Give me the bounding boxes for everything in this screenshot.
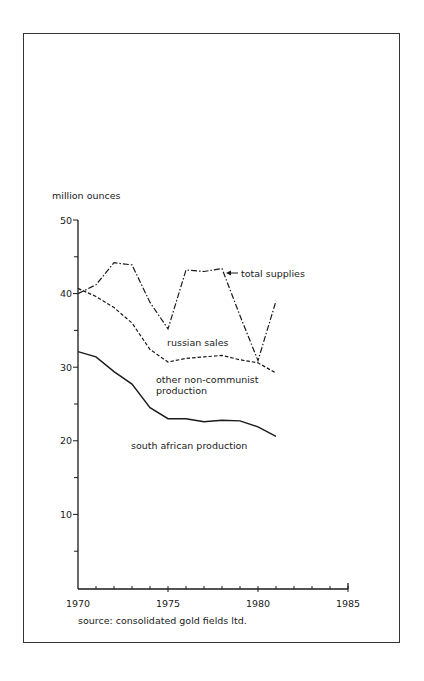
y-tick-label: 30 [60,362,72,373]
source-note: source: consolidated gold fields ltd. [78,615,247,626]
y-axis-ticks [73,220,78,551]
y-tick-label: 10 [60,509,72,520]
y-axis-tick-labels: 1020304050 [60,215,72,520]
y-axis-label: million ounces [52,190,121,201]
arrow-icon [226,271,238,276]
other-non-communist-label-line1: other non-communist [156,374,259,385]
total-supplies-label: total supplies [241,268,305,279]
south-african-production-label: south african production [131,440,247,451]
y-tick-label: 50 [60,215,72,226]
y-tick-label: 20 [60,435,72,446]
x-tick-label: 1970 [66,598,90,609]
y-tick-label: 40 [60,288,72,299]
x-tick-label: 1975 [156,598,180,609]
x-tick-label: 1980 [246,598,270,609]
axes [78,220,348,589]
x-tick-label: 1985 [336,598,360,609]
gold-supply-chart: million ounces 1020304050 19701975198019… [0,0,424,681]
other-non-communist-label-line2: production [156,385,207,396]
russian-sales-label: russian sales [167,337,229,348]
x-axis-tick-labels: 1970197519801985 [66,598,360,609]
